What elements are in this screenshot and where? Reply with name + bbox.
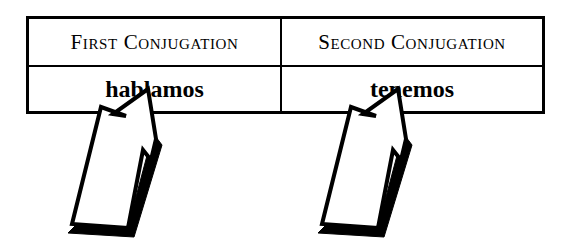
column-header-label-first: First Conjugation xyxy=(71,32,239,53)
table-header-cell-first-conjugation: First Conjugation xyxy=(28,18,282,67)
table-cell-verb-second-conjugation: tenemos xyxy=(281,66,544,113)
verb-form-hablamos: hablamos xyxy=(105,77,204,101)
column-header-label-second: Second Conjugation xyxy=(318,32,506,53)
table-header-cell-second-conjugation: Second Conjugation xyxy=(281,18,544,67)
table-data-row: hablamos tenemos xyxy=(28,66,544,113)
table-cell-verb-first-conjugation: hablamos xyxy=(28,66,282,113)
conjugation-figure: First Conjugation Second Conjugation hab… xyxy=(0,0,569,250)
verb-form-tenemos: tenemos xyxy=(370,77,454,101)
conjugation-table: First Conjugation Second Conjugation hab… xyxy=(26,16,545,114)
table-header-row: First Conjugation Second Conjugation xyxy=(28,18,544,67)
